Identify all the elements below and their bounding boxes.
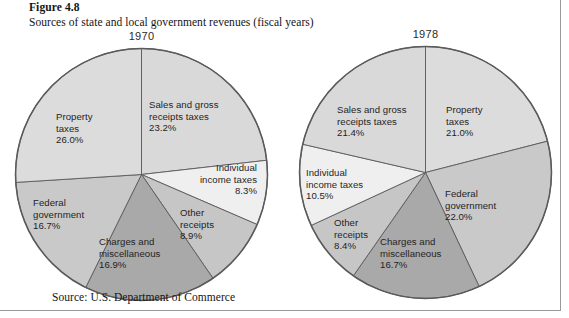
slice-percent: 8.4% [334, 240, 368, 252]
slice-label-federal-government-1978: Federal government 22.0% [445, 188, 496, 223]
slice-line1: Charges and [380, 236, 436, 247]
slice-label-sales-gross-receipts-taxes-1970: Sales and gross receipts taxes 23.2% [149, 99, 219, 134]
slice-line2: government [33, 209, 84, 220]
slice-line2: income taxes [306, 179, 363, 190]
slice-percent: 16.7% [33, 220, 84, 232]
frame-rule-bottom [0, 310, 561, 311]
figure-caption-block: Figure 4.8 Sources of state and local go… [29, 1, 549, 29]
figure-title: Sources of state and local government re… [29, 15, 549, 29]
figure-container: Figure 4.8 Sources of state and local go… [0, 0, 569, 318]
slice-label-other-receipts-1970: Other receipts 8.9% [180, 207, 214, 242]
slice-line1: Sales and gross [149, 99, 219, 110]
slice-percent: 8.3% [175, 185, 257, 197]
figure-number: Figure 4.8 [29, 1, 549, 14]
slice-line1: Other [180, 207, 204, 218]
pie-title-1978: 1978 [298, 28, 553, 40]
slice-line1: Federal [33, 197, 66, 208]
slice-label-sales-gross-receipts-taxes-1978: Sales and gross receipts taxes 21.4% [337, 104, 407, 139]
slice-percent: 22.0% [445, 211, 496, 223]
slice-label-property-taxes-1970: Property taxes 26.0% [56, 111, 93, 146]
slice-line1: Sales and gross [337, 104, 407, 115]
slice-label-charges-and-miscellaneous-1978: Charges and miscellaneous 16.7% [380, 236, 441, 271]
slice-label-federal-government-1970: Federal government 16.7% [33, 197, 84, 232]
slice-line2: taxes [446, 116, 469, 127]
slice-percent: 21.4% [337, 127, 407, 139]
slice-percent: 10.5% [306, 190, 363, 202]
slice-label-individual-income-taxes-1978: Individual income taxes 10.5% [306, 167, 363, 202]
source-note: Source: U.S. Department of Commerce [52, 291, 235, 303]
slice-line1: Property [446, 104, 483, 115]
slice-line2: miscellaneous [380, 248, 441, 259]
slice-percent: 26.0% [56, 134, 93, 146]
slice-label-other-receipts-1978: Other receipts 8.4% [334, 217, 368, 252]
slice-line2: receipts [334, 229, 368, 240]
slice-percent: 16.9% [99, 259, 160, 271]
slice-line2: miscellaneous [99, 248, 160, 259]
slice-line2: taxes [56, 123, 79, 134]
slice-line2: receipts [180, 219, 214, 230]
slice-line1: Individual [216, 162, 257, 173]
pie-panel-1978: 1978 Sales and gross receipts taxes 21.4… [298, 28, 553, 286]
slice-line1: Charges and [99, 236, 155, 247]
slice-line1: Other [334, 217, 358, 228]
slice-percent: 8.9% [180, 230, 214, 242]
slice-line2: receipts taxes [149, 111, 209, 122]
slice-percent: 23.2% [149, 122, 219, 134]
slice-percent: 16.7% [380, 259, 441, 271]
slice-label-charges-and-miscellaneous-1970: Charges and miscellaneous 16.9% [99, 236, 160, 271]
slice-label-property-taxes-1978: Property taxes 21.0% [446, 104, 483, 139]
slice-label-individual-income-taxes-1970: Individual income taxes 8.3% [175, 162, 257, 197]
slice-line2: income taxes [200, 174, 257, 185]
slice-line1: Property [56, 111, 93, 122]
frame-rule-right [560, 0, 561, 311]
slice-percent: 21.0% [446, 127, 483, 139]
slice-line1: Federal [445, 188, 478, 199]
pie-panel-1970: 1970 Property taxes 26.0% Sales and gros… [14, 30, 269, 288]
slice-line1: Individual [306, 167, 347, 178]
slice-line2: government [445, 200, 496, 211]
pie-title-1970: 1970 [14, 30, 269, 42]
slice-line2: receipts taxes [337, 116, 397, 127]
